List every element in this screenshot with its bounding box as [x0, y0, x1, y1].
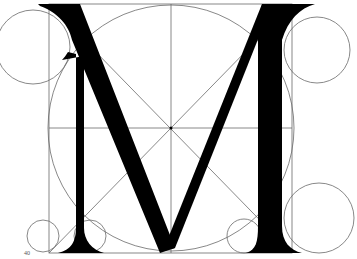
letter-m-construction-diagram: 40 [0, 0, 357, 259]
page-number: 40 [24, 250, 30, 256]
center-point [170, 127, 173, 130]
circle-bottom-right [284, 183, 354, 253]
construction-drawing [0, 0, 357, 259]
letter-m-glyph [38, 4, 315, 253]
left-diagonal [38, 4, 175, 253]
circle-bottom-left-outer [27, 220, 59, 252]
right-diagonal [163, 4, 272, 251]
circle-top-left [0, 10, 70, 84]
circle-top-right [284, 17, 350, 83]
construction-lines [0, 4, 354, 253]
